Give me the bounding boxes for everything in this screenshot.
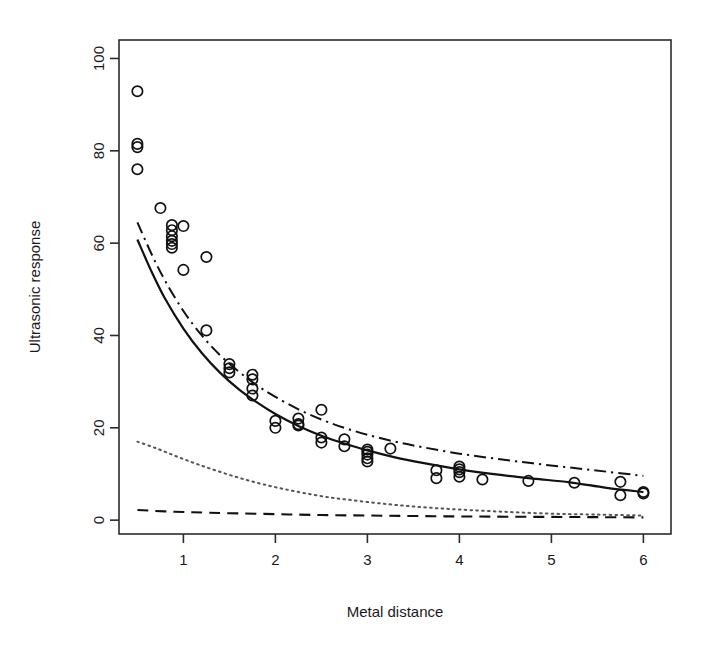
data-point (270, 423, 280, 433)
data-point (132, 164, 142, 174)
x-tick-label: 1 (179, 551, 187, 568)
data-point (178, 221, 188, 231)
data-point (178, 265, 188, 275)
data-point (201, 252, 211, 262)
y-tick-label: 40 (91, 327, 108, 344)
fitted-curves (137, 222, 643, 517)
plot-frame (119, 40, 671, 534)
data-points (132, 86, 648, 500)
data-point (431, 473, 441, 483)
y-tick-label: 60 (91, 235, 108, 252)
data-point (155, 203, 165, 213)
data-point (316, 405, 326, 415)
plot-box (119, 40, 671, 534)
axis-ticks: 123456020406080100 (91, 46, 648, 568)
scatter-plot-svg: 123456020406080100 Metal distanceUltraso… (0, 0, 709, 652)
x-tick-label: 4 (455, 551, 463, 568)
y-tick-label: 0 (91, 516, 108, 524)
x-tick-label: 2 (271, 551, 279, 568)
y-axis-title: Ultrasonic response (26, 221, 43, 354)
data-point (132, 86, 142, 96)
data-point (201, 325, 211, 335)
fitted-curve-dashed (137, 510, 643, 517)
y-tick-label: 100 (91, 46, 108, 71)
fitted-curve-dashdot (137, 222, 643, 475)
x-tick-label: 3 (363, 551, 371, 568)
chart-figure: 123456020406080100 Metal distanceUltraso… (0, 0, 709, 652)
data-point (385, 443, 395, 453)
x-axis-title: Metal distance (347, 603, 444, 620)
x-tick-label: 5 (547, 551, 555, 568)
axis-labels: Metal distanceUltrasonic response (26, 221, 443, 620)
data-point (615, 477, 625, 487)
fitted-curve-dotted (137, 442, 643, 516)
y-tick-label: 80 (91, 142, 108, 159)
y-tick-label: 20 (91, 419, 108, 436)
x-tick-label: 6 (639, 551, 647, 568)
data-point (477, 474, 487, 484)
data-point (615, 490, 625, 500)
